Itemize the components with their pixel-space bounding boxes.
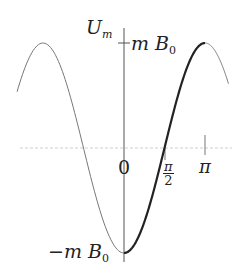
min-label-sub: 0 [102,252,109,265]
max-label-main: B [155,32,169,54]
max-label-sub: 0 [169,44,176,57]
y-axis-label: Um [86,18,112,37]
min-label-main: B [88,240,102,262]
potential-energy-plot [0,0,245,274]
half-pi-den: 2 [163,174,174,187]
curve-thin-right [205,43,228,84]
min-label: −m B0 [48,242,109,261]
pi-label: π [199,158,211,176]
max-label: m B0 [131,34,176,53]
y-axis-label-sub: m [102,28,112,41]
y-axis-label-main: U [86,16,102,38]
half-pi-num: π [163,160,174,174]
min-label-pre: −m [48,240,82,262]
half-pi-fraction: π 2 [163,160,174,187]
half-pi-label: π 2 [163,160,174,188]
max-label-pre: m [131,32,149,54]
origin-label: 0 [118,158,130,177]
